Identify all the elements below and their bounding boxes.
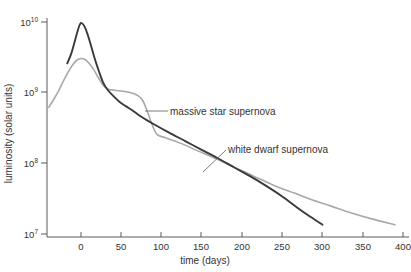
x-tick-label-150: 150 — [193, 241, 209, 252]
x-axis-title: time (days) — [180, 255, 229, 266]
x-tick-label-0: 0 — [78, 241, 83, 252]
supernova-light-curve-figure: 1010 109 108 107 0 50 100 150 200 250 30… — [0, 0, 411, 272]
y-tick-label-1e10: 1010 — [4, 16, 38, 28]
x-tick-label-400: 400 — [395, 241, 411, 252]
x-tick-label-50: 50 — [116, 241, 127, 252]
x-tick-label-300: 300 — [314, 241, 330, 252]
x-tick-label-250: 250 — [274, 241, 290, 252]
series-label-white-dwarf-supernova: white dwarf supernova — [228, 144, 328, 155]
y-axis-title: luminosity (solar units) — [3, 74, 14, 194]
y-tick-marks — [41, 22, 47, 234]
y-tick-label-1e7: 107 — [4, 228, 38, 240]
x-tick-label-350: 350 — [355, 241, 371, 252]
x-tick-label-100: 100 — [153, 241, 169, 252]
plot-canvas — [0, 0, 411, 272]
x-tick-marks — [81, 232, 403, 237]
axes-group — [47, 18, 409, 237]
curve-white-dwarf-supernova — [67, 23, 322, 225]
series-label-massive-star-supernova: massive star supernova — [170, 106, 276, 117]
data-series-group — [49, 23, 395, 225]
curve-massive-star-supernova — [49, 58, 395, 224]
x-tick-label-200: 200 — [234, 241, 250, 252]
